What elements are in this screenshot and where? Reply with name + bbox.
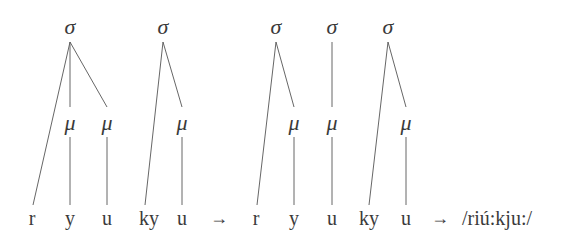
segment: u: [327, 207, 337, 229]
syllable-structure-diagram: σ σ μ μ μ r y u ky u → σ σ σ μ μ μ r y u…: [0, 0, 572, 242]
sigma-node: σ: [158, 14, 170, 39]
segment: y: [65, 207, 75, 230]
segment: r: [29, 207, 36, 229]
mora-node: μ: [325, 110, 337, 135]
arrow-icon: →: [431, 208, 449, 228]
sigma-node: σ: [65, 14, 77, 39]
segment: u: [102, 207, 112, 229]
mora-node: μ: [175, 110, 187, 135]
mora-node: μ: [63, 110, 75, 135]
segment: r: [253, 207, 260, 229]
segment: y: [289, 207, 299, 230]
segment: ky: [359, 207, 379, 230]
segment: u: [177, 207, 187, 229]
segment: ky: [139, 207, 159, 230]
sigma-node: σ: [327, 14, 339, 39]
mora-node: μ: [287, 110, 299, 135]
arrow-icon: →: [210, 208, 228, 228]
sigma-node: σ: [383, 14, 395, 39]
segment: u: [401, 207, 411, 229]
mora-node: μ: [399, 110, 411, 135]
mora-node: μ: [100, 110, 112, 135]
phonetic-transcription: /riú:kju:/: [462, 207, 532, 230]
sigma-node: σ: [271, 14, 283, 39]
